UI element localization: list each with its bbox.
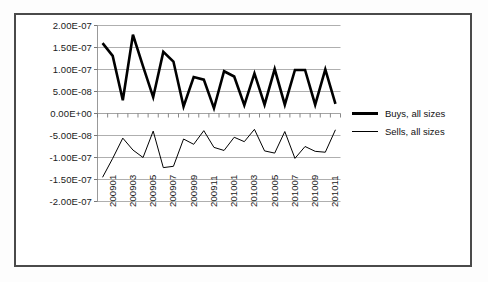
y-axis-tick-label: 1.50E-07	[24, 42, 92, 53]
y-axis-tick-label: -1.00E-07	[24, 152, 92, 163]
x-axis-tick-label: 201001	[228, 174, 239, 206]
legend-line-swatch-icon	[352, 126, 378, 136]
legend-label: Buys, all sizes	[385, 108, 445, 119]
x-axis-tick-label: 200911	[208, 175, 219, 207]
y-axis-tick-label: -2.00E-07	[24, 196, 92, 207]
y-axis-tick-label: -1.50E-07	[24, 174, 92, 185]
x-axis-tick-label: 200901	[107, 174, 118, 206]
x-axis-tick-label: 201007	[289, 174, 300, 206]
y-axis-tick-label: 5.00E-08	[24, 86, 92, 97]
y-axis-tick-label: 1.00E-07	[24, 64, 92, 75]
x-axis-tick-label: 201005	[269, 174, 280, 206]
y-axis-tick-label: 0.00E+00	[24, 108, 92, 119]
chart-figure: 2.00E-071.50E-071.00E-075.00E-080.00E+00…	[0, 0, 488, 282]
series-line-sells	[103, 129, 336, 177]
x-axis-tick-label: 201003	[248, 174, 259, 206]
x-axis-tick-label: 200909	[188, 174, 199, 206]
x-axis-tick-label: 200907	[167, 174, 178, 206]
legend-entry: Buys, all sizes	[352, 104, 476, 122]
x-axis-tick-label: 201011	[329, 175, 340, 207]
legend-label: Sells, all sizes	[385, 126, 445, 137]
legend-entry: Sells, all sizes	[352, 122, 476, 140]
y-axis-tick-label: 2.00E-07	[24, 20, 92, 31]
x-axis-tick-label: 200903	[127, 174, 138, 206]
x-axis-tick-label: 200905	[147, 174, 158, 206]
legend-line-swatch-icon	[352, 108, 378, 118]
x-axis-tick-label: 201009	[309, 174, 320, 206]
y-axis-tick-label: -5.00E-08	[24, 130, 92, 141]
series-line-buys	[103, 35, 336, 108]
chart-legend: Buys, all sizesSells, all sizes	[352, 104, 476, 140]
